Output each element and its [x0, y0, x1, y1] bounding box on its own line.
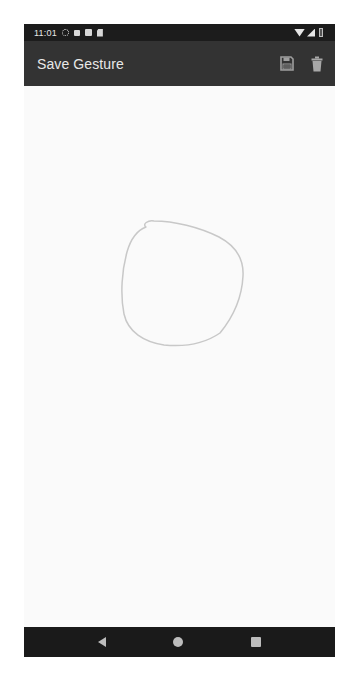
- status-right: [294, 28, 335, 37]
- gesture-stroke: [24, 86, 335, 627]
- phone-screen: 11:01 Save Gesture: [24, 24, 335, 657]
- recents-icon[interactable]: [251, 637, 261, 647]
- page-title: Save Gesture: [24, 56, 124, 72]
- sd-card-icon: [97, 29, 103, 37]
- status-left: 11:01: [24, 28, 103, 38]
- notification-icon: [74, 30, 80, 36]
- gesture-canvas[interactable]: [24, 86, 335, 627]
- trash-icon: [311, 56, 323, 72]
- settings-icon: [62, 29, 69, 36]
- home-icon[interactable]: [173, 637, 183, 647]
- status-time: 11:01: [34, 28, 57, 38]
- status-bar: 11:01: [24, 24, 335, 41]
- battery-icon: [319, 28, 323, 37]
- save-button[interactable]: [279, 55, 295, 73]
- signal-icon: [307, 29, 315, 37]
- floppy-disk-icon: [280, 56, 294, 71]
- wifi-icon: [294, 29, 305, 37]
- photo-icon: [85, 29, 92, 36]
- system-nav-bar: [24, 627, 335, 657]
- app-toolbar: Save Gesture: [24, 41, 335, 86]
- toolbar-actions: [279, 55, 335, 73]
- delete-button[interactable]: [309, 55, 325, 73]
- back-icon[interactable]: [98, 637, 106, 647]
